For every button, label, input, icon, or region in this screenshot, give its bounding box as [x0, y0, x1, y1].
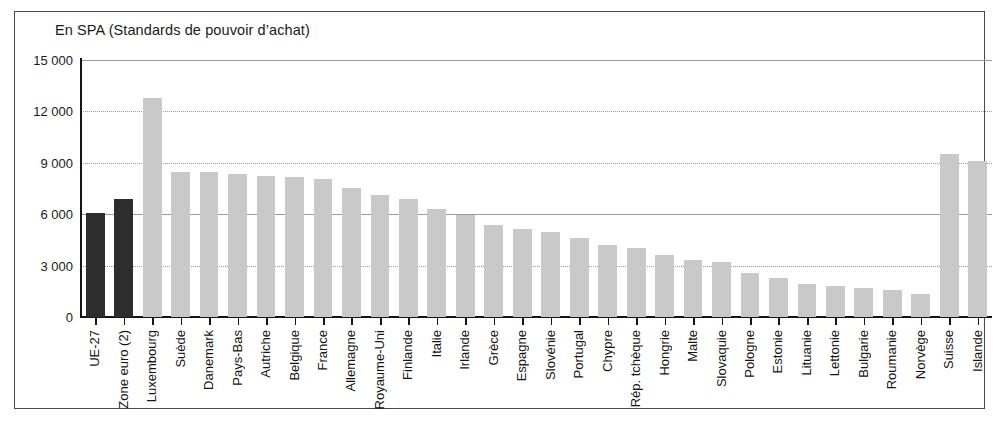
x-category-label: Portugal — [572, 330, 585, 378]
x-category-label: Belgique — [288, 330, 301, 381]
y-tick-label: 15 000 — [33, 53, 73, 68]
bar — [171, 172, 190, 317]
x-tickmark — [750, 318, 752, 325]
x-tickmark — [551, 318, 553, 325]
x-category-label: Zone euro (2) — [117, 330, 130, 409]
bar — [427, 209, 446, 317]
bar — [314, 179, 333, 317]
x-category-label: Danemark — [202, 330, 215, 390]
x-category-label: Islande — [971, 330, 984, 372]
x-tickmark — [978, 318, 980, 325]
bar — [627, 248, 646, 317]
y-tick-label: 0 — [66, 310, 73, 325]
x-category-label: Italie — [430, 330, 443, 357]
x-tickmark — [722, 318, 724, 325]
x-category-label: Allemagne — [344, 330, 357, 391]
y-axis-tick-labels: 03 0006 0009 00012 00015 000 — [15, 12, 73, 423]
x-tickmark — [95, 318, 97, 325]
x-category-label: Estonie — [771, 330, 784, 373]
x-tickmark — [665, 318, 667, 325]
bar — [285, 177, 304, 317]
x-tickmark — [181, 318, 183, 325]
x-tickmark — [295, 318, 297, 325]
x-category-label: Slovénie — [544, 330, 557, 380]
bar — [655, 255, 674, 317]
bar — [968, 161, 987, 317]
x-category-label: France — [316, 330, 329, 370]
y-tick-label: 9 000 — [40, 155, 73, 170]
bar — [456, 215, 475, 317]
bar — [200, 172, 219, 317]
x-tickmark — [124, 318, 126, 325]
x-tickmark — [323, 318, 325, 325]
x-category-label: Espagne — [515, 330, 528, 381]
bar — [86, 213, 105, 318]
bar — [741, 273, 760, 317]
x-tickmark — [152, 318, 154, 325]
bar — [399, 199, 418, 317]
x-tickmark — [437, 318, 439, 325]
x-category-label: Norvège — [914, 330, 927, 379]
x-tickmark — [209, 318, 211, 325]
x-tickmark — [778, 318, 780, 325]
bar — [371, 195, 390, 318]
bar — [257, 176, 276, 317]
x-category-label: Autriche — [259, 330, 272, 378]
x-category-label: UE-27 — [88, 330, 101, 367]
chart-figure-frame: En SPA (Standards de pouvoir d’achat) 03… — [14, 11, 985, 409]
bar — [712, 262, 731, 317]
x-tickmark — [494, 318, 496, 325]
x-category-label: Roumanie — [885, 330, 898, 389]
bar — [114, 199, 133, 317]
x-tickmark — [465, 318, 467, 325]
y-tick-label: 6 000 — [40, 207, 73, 222]
bar-series — [81, 60, 992, 317]
bar — [826, 286, 845, 317]
bar — [940, 154, 959, 317]
x-category-label: Rép. tchèque — [629, 330, 642, 407]
x-tickmark — [864, 318, 866, 325]
y-tick-label: 3 000 — [40, 258, 73, 273]
x-category-label: Bulgarie — [857, 330, 870, 378]
bar — [484, 225, 503, 317]
bar — [342, 188, 361, 317]
bar — [854, 288, 873, 317]
x-tickmark — [693, 318, 695, 325]
x-category-label: Malte — [686, 330, 699, 362]
x-tickmark — [408, 318, 410, 325]
bar — [513, 229, 532, 317]
bar — [883, 290, 902, 317]
bar — [541, 232, 560, 317]
x-category-label: Finlande — [401, 330, 414, 380]
x-tickmark — [608, 318, 610, 325]
x-tickmark — [921, 318, 923, 325]
x-category-label: Pologne — [743, 330, 756, 378]
x-tickmark — [835, 318, 837, 325]
x-category-label: Slovaquie — [715, 330, 728, 387]
x-category-label: Luxembourg — [145, 330, 158, 402]
x-tickmark — [636, 318, 638, 325]
x-tickmark — [807, 318, 809, 325]
bar — [911, 294, 930, 317]
x-tickmark — [522, 318, 524, 325]
bar — [769, 278, 788, 317]
chart-title: En SPA (Standards de pouvoir d’achat) — [55, 22, 310, 38]
x-category-label: Royaume-Uni — [373, 330, 386, 409]
x-category-label: Lituanie — [800, 330, 813, 376]
bar — [143, 98, 162, 317]
x-category-label: Hongrie — [658, 330, 671, 376]
x-category-label: Irlande — [458, 330, 471, 370]
y-tick-label: 12 000 — [33, 104, 73, 119]
x-tickmark — [579, 318, 581, 325]
x-tickmark — [266, 318, 268, 325]
x-category-label: Chypre — [601, 330, 614, 372]
bar — [798, 284, 817, 317]
x-category-label: Lettonie — [828, 330, 841, 376]
x-category-label: Pays-Bas — [231, 330, 244, 386]
x-tickmark — [949, 318, 951, 325]
bar — [598, 245, 617, 317]
bar — [228, 174, 247, 317]
x-tickmark — [238, 318, 240, 325]
bar — [684, 260, 703, 317]
x-category-label: Grèce — [487, 330, 500, 365]
